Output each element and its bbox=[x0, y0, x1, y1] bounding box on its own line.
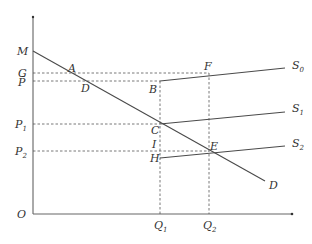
point-A: A bbox=[67, 62, 76, 75]
point-F: F bbox=[203, 60, 212, 73]
y-label-P1: P1 bbox=[14, 118, 27, 133]
curve-label-S0: S0 bbox=[292, 59, 305, 74]
point-H: H bbox=[149, 152, 160, 165]
point-B: B bbox=[148, 83, 157, 96]
supply-curve-S0 bbox=[160, 68, 285, 81]
point-C: C bbox=[151, 124, 160, 137]
curve-label-S1: S1 bbox=[292, 102, 304, 117]
curve-label-D: D bbox=[268, 179, 278, 192]
x-axis-end-dot bbox=[291, 213, 294, 216]
supply-curve-S1 bbox=[160, 112, 285, 124]
supply-curve-S2 bbox=[160, 146, 285, 158]
point-E: E bbox=[209, 140, 218, 153]
y-label-P2: P2 bbox=[14, 145, 27, 160]
point-I: I bbox=[151, 138, 157, 151]
supply-demand-diagram: M G P̄ P1 P2 O Q1 Q2 A D F B C I H E S0 … bbox=[0, 0, 312, 244]
origin-label: O bbox=[17, 208, 26, 221]
x-label-Q1: Q1 bbox=[154, 219, 168, 234]
curve-label-S2: S2 bbox=[292, 137, 305, 152]
y-label-M: M bbox=[16, 45, 29, 58]
y-label-Pbar: P̄ bbox=[17, 76, 26, 89]
y-axis-end-dot bbox=[32, 16, 34, 18]
point-D: D bbox=[80, 82, 90, 95]
x-label-Q2: Q2 bbox=[203, 219, 217, 234]
